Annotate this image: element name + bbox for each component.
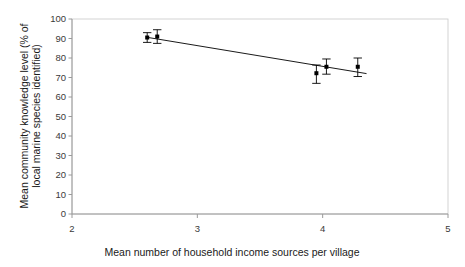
y-tick-label-30: 30: [55, 150, 66, 161]
x-axis-title: Mean number of household income sources …: [104, 246, 359, 258]
x-tick-label-2: 2: [69, 223, 74, 234]
y-tick-label-90: 90: [55, 33, 66, 44]
y-tick-label-50: 50: [55, 111, 66, 122]
y-tick-label-80: 80: [55, 52, 66, 63]
x-tick-label-3: 3: [195, 223, 200, 234]
y-tick-label-100: 100: [50, 13, 66, 24]
data-point-marker-0: [145, 36, 149, 40]
y-tick-label-20: 20: [55, 169, 66, 180]
data-point-marker-1: [155, 35, 159, 39]
y-axis-title-line-2: local marine species identified): [30, 44, 42, 188]
chart-figure: 01020304050607080901002345Mean number of…: [0, 0, 465, 267]
y-tick-label-70: 70: [55, 72, 66, 83]
x-tick-label-5: 5: [445, 223, 450, 234]
y-tick-label-60: 60: [55, 91, 66, 102]
data-point-marker-2: [314, 71, 318, 75]
data-point-marker-3: [324, 65, 328, 69]
y-axis-title-line-1: Mean community knowledge level (% of: [18, 23, 30, 208]
data-point-marker-4: [356, 65, 360, 69]
plot-area-background: [72, 19, 448, 214]
y-tick-label-40: 40: [55, 130, 66, 141]
y-tick-label-10: 10: [55, 189, 66, 200]
x-tick-label-4: 4: [320, 223, 325, 234]
scatter-plot-svg: 01020304050607080901002345Mean number of…: [0, 0, 465, 267]
y-tick-label-0: 0: [61, 208, 66, 219]
